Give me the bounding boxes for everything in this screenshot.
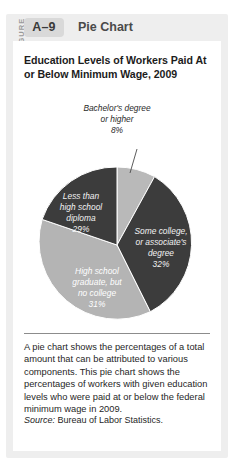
caption-source-text: Bureau of Labor Statistics.	[58, 415, 164, 425]
pie-label-some-college-line1: Some college,	[134, 226, 187, 236]
pie-label-less-than-high-school-line1: Less than	[63, 191, 100, 201]
figure-card: Education Levels of Workers Paid At or B…	[13, 41, 221, 451]
caption-source-kicker: Source:	[24, 415, 55, 425]
pie-label-high-school-graduate-line3: no college	[78, 288, 117, 298]
pie-label-bachelors-line2: or higher	[100, 114, 134, 124]
figure-number-tag: A–9	[24, 18, 64, 37]
pie-label-high-school-graduate-line2: graduate, but	[72, 277, 122, 287]
pie-chart: Bachelor's degree or higher 8% Some coll…	[13, 93, 221, 331]
pie-value-high-school-graduate: 31%	[89, 299, 106, 309]
caption-divider	[24, 333, 210, 334]
pie-label-some-college-line3: degree	[148, 248, 174, 258]
pie-label-high-school-graduate-line1: High school	[75, 266, 120, 276]
chart-title: Education Levels of Workers Paid At or B…	[24, 54, 212, 81]
pie-label-less-than-high-school-line3: diploma	[66, 213, 96, 223]
pie-value-less-than-high-school: 29%	[72, 224, 90, 234]
figure-root: FIGURE A–9 Pie Chart Education Levels of…	[0, 0, 234, 465]
pie-value-some-college: 32%	[153, 259, 170, 269]
pie-label-less-than-high-school-line2: high school	[60, 202, 104, 212]
figure-kicker-title: Pie Chart	[78, 18, 133, 37]
pie-value-bachelors: 8%	[111, 125, 124, 135]
caption-text: A pie chart shows the percentages of a t…	[24, 341, 212, 415]
caption-source: Source: Bureau of Labor Statistics.	[24, 414, 212, 426]
pie-label-bachelors-line1: Bachelor's degree	[83, 103, 151, 113]
pie-label-some-college-line2: or associate's	[136, 237, 188, 247]
